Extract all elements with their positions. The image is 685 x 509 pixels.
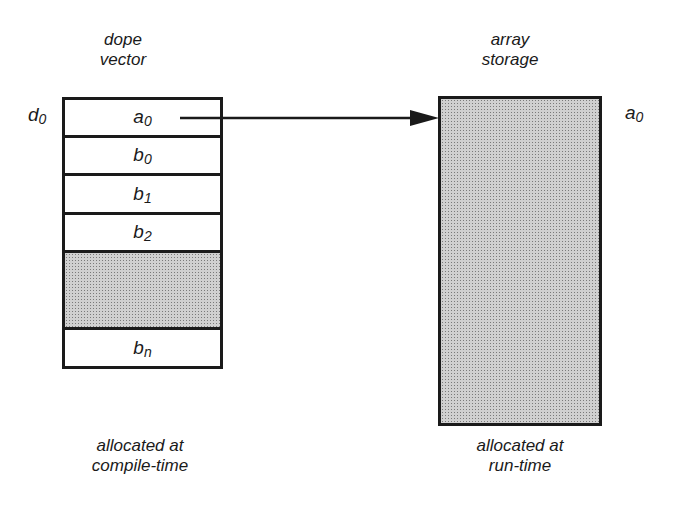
arrow-head-icon (410, 110, 439, 126)
pointer-arrow (0, 0, 685, 509)
